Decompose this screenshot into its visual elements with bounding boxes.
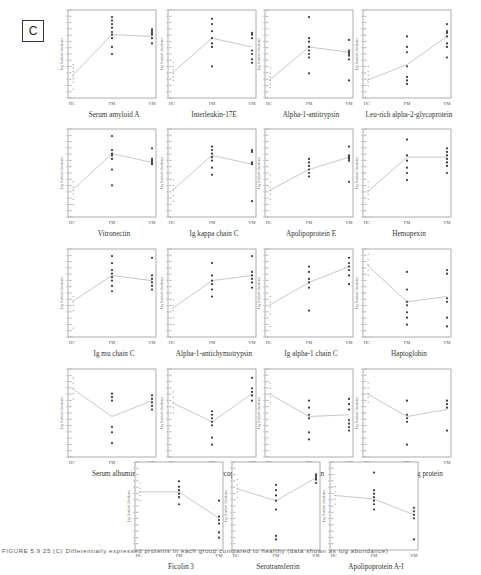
scatter-chart: Log Standard AbundanceHCFMVM	[54, 127, 160, 229]
data-point	[368, 388, 370, 389]
x-tick-label: HC	[69, 460, 75, 465]
data-point	[140, 491, 142, 492]
y-axis-label: Log Standard Abundance	[160, 37, 164, 70]
data-point	[73, 89, 75, 90]
data-point	[111, 426, 113, 428]
plot-apolipoprotein-e: Log Standard AbundanceHCFMVMApolipoprote…	[251, 127, 357, 245]
y-axis-label: Log Standard Abundance	[160, 156, 164, 189]
data-point	[237, 484, 239, 485]
data-point	[308, 407, 310, 409]
data-point	[73, 204, 75, 205]
plot-title: Alpha-1-antichymotrypsin	[154, 350, 260, 358]
data-point	[368, 382, 370, 383]
data-point	[173, 195, 175, 196]
data-point	[178, 493, 180, 495]
scatter-chart: Log Standard AbundanceHCFMVM	[349, 367, 455, 469]
data-point	[270, 199, 272, 200]
plot-serum-amyloid-a: Log Standard AbundanceHCFMVMSerum amyloi…	[54, 8, 160, 126]
data-point	[308, 49, 310, 51]
x-tick-label: FM	[404, 101, 411, 106]
data-point	[406, 414, 408, 416]
data-point	[111, 158, 113, 160]
data-point	[237, 497, 239, 498]
data-point	[308, 37, 310, 39]
y-axis-label: Log Standard Abundance	[224, 489, 228, 522]
data-point	[368, 85, 370, 86]
x-tick-label: HC	[169, 220, 175, 225]
data-point	[446, 30, 448, 32]
plot-frame	[68, 129, 156, 217]
data-point	[151, 42, 153, 44]
plot-frame	[135, 462, 223, 550]
x-tick-label: HC	[364, 340, 370, 345]
data-point	[446, 407, 448, 409]
data-point	[406, 311, 408, 313]
data-point	[406, 400, 408, 402]
data-point	[111, 153, 113, 155]
data-point	[111, 135, 113, 137]
data-point	[406, 324, 408, 326]
data-point	[406, 301, 408, 303]
data-point	[446, 269, 448, 271]
data-point	[446, 430, 448, 432]
scatter-chart: Log Standard AbundanceHCFMVM	[251, 127, 357, 229]
data-point	[308, 41, 310, 43]
data-point	[173, 412, 175, 413]
data-point	[237, 479, 239, 480]
data-point	[151, 281, 153, 283]
data-point	[446, 42, 448, 44]
data-point	[173, 190, 175, 191]
figure-caption: FIGURE 5.9 25 (C) Differentially express…	[0, 548, 481, 559]
data-point	[368, 75, 370, 76]
data-point	[275, 535, 277, 537]
x-tick-label: VM	[443, 101, 450, 106]
scatter-chart: Log Standard AbundanceHCFMVM	[54, 247, 160, 349]
plot-title: Serum amyloid A	[54, 111, 160, 119]
data-point	[368, 78, 370, 79]
data-point	[178, 486, 180, 488]
data-point	[111, 184, 113, 186]
plot-title: Ficolin 3	[121, 563, 227, 571]
data-point	[140, 500, 142, 501]
plot-hemopexin: Log Standard AbundanceHCFMVMHemopexin	[349, 127, 455, 245]
data-point	[111, 255, 113, 257]
data-point	[373, 500, 375, 502]
data-point	[446, 301, 448, 303]
data-point	[270, 73, 272, 74]
scatter-chart: Log Standard AbundanceHCFMVM	[121, 460, 227, 562]
data-point	[270, 87, 272, 88]
data-point	[211, 160, 213, 162]
data-point	[111, 34, 113, 36]
y-axis-label: Log Standard Abundance	[60, 156, 64, 189]
data-point	[73, 82, 75, 83]
data-point	[446, 273, 448, 275]
data-point	[111, 400, 113, 402]
data-point	[111, 19, 113, 21]
data-point	[111, 273, 113, 275]
data-point	[111, 442, 113, 444]
data-point	[211, 444, 213, 446]
data-point	[308, 278, 310, 280]
data-point	[111, 16, 113, 18]
data-point	[446, 56, 448, 58]
data-point	[373, 493, 375, 495]
y-axis-label: Log Standard Abundance	[60, 396, 64, 429]
scatter-chart: Log Standard AbundanceHCFMVM	[349, 8, 455, 110]
data-point	[368, 82, 370, 83]
plot-frame	[265, 369, 353, 457]
y-axis-label: Log Standard Abundance	[160, 276, 164, 309]
data-point	[413, 510, 415, 512]
data-point	[308, 46, 310, 48]
data-point	[211, 42, 213, 44]
data-point	[406, 444, 408, 446]
scatter-chart: Log Standard AbundanceHCFMVM	[349, 127, 455, 229]
data-point	[151, 278, 153, 280]
data-point	[406, 288, 408, 290]
data-point	[151, 28, 153, 30]
scatter-chart: Log Standard AbundanceHCFMVM	[251, 367, 357, 469]
data-point	[111, 46, 113, 48]
data-point	[111, 27, 113, 29]
x-tick-label: HC	[266, 340, 272, 345]
data-point	[211, 167, 213, 169]
data-point	[270, 83, 272, 84]
